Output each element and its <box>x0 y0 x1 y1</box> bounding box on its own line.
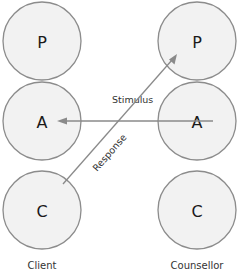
counsellor-column: P A C Counsellor <box>158 2 236 271</box>
client-parent-letter: P <box>37 33 47 52</box>
counsellor-parent-letter: P <box>192 33 202 52</box>
stimulus-label: Stimulus <box>112 94 153 105</box>
client-adult-letter: A <box>37 113 48 132</box>
counsellor-label: Counsellor <box>171 260 225 271</box>
client-child-letter: C <box>36 202 47 221</box>
response-label: Response <box>90 132 128 174</box>
client-column: P A C Client <box>3 2 81 271</box>
ta-diagram: P A C Client P A C Counsellor Stimulus R… <box>0 0 239 277</box>
counsellor-child-letter: C <box>191 202 202 221</box>
counsellor-adult-letter: A <box>192 113 203 132</box>
client-label: Client <box>28 260 57 271</box>
